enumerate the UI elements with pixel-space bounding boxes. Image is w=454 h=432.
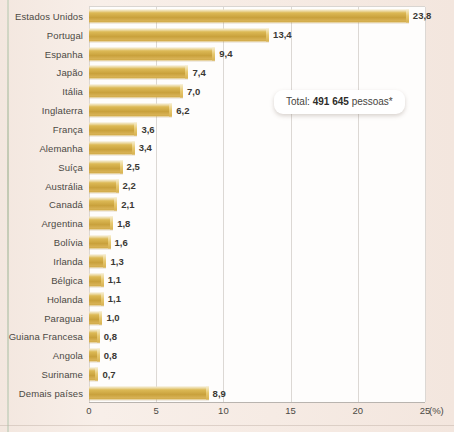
bar <box>89 311 102 324</box>
bar <box>89 9 409 22</box>
bar-value-label: 1,1 <box>108 274 121 285</box>
category-label: Suriname <box>42 369 83 380</box>
total-callout: Total: 491 645 pessoas* <box>274 90 405 114</box>
bar-container: 9,4 <box>89 47 215 60</box>
bar-value-label: 1,1 <box>108 293 121 304</box>
category-label: Demais países <box>19 388 83 399</box>
bar <box>89 330 100 343</box>
bar-value-label: 3,6 <box>141 124 154 135</box>
category-label: Inglaterra <box>42 105 83 116</box>
bar-value-label: 13,4 <box>273 29 292 40</box>
bar-container: 3,6 <box>89 123 137 136</box>
category-label: Canadá <box>49 199 83 210</box>
x-tick-label: 0 <box>86 405 91 416</box>
bar-container: 1,1 <box>89 273 104 286</box>
bar-value-label: 23,8 <box>413 10 432 21</box>
bar <box>89 387 209 400</box>
bar-container: 0,8 <box>89 330 100 343</box>
x-tick-label: 5 <box>154 405 159 416</box>
page-bottom-rule <box>0 425 454 426</box>
category-label: França <box>53 124 83 135</box>
bar-container: 0,7 <box>89 368 98 381</box>
category-label: Japão <box>57 67 83 78</box>
bar-row: Japão7,4 <box>0 63 454 83</box>
bar-row: Demais países8,9 <box>0 383 454 403</box>
bar-container: 23,8 <box>89 9 409 22</box>
bar-container: 3,4 <box>89 141 135 154</box>
bar-value-label: 2,5 <box>127 161 140 172</box>
category-label: Estados Unidos <box>15 10 83 21</box>
bar-value-label: 0,8 <box>104 350 117 361</box>
bar-container: 2,1 <box>89 198 117 211</box>
bar-container: 0,8 <box>89 349 100 362</box>
bar-row: Austrália2,2 <box>0 176 454 196</box>
bar-value-label: 1,0 <box>106 312 119 323</box>
bar <box>89 198 117 211</box>
bar-container: 13,4 <box>89 28 269 41</box>
bar-container: 8,9 <box>89 387 209 400</box>
bar <box>89 255 106 268</box>
bar-container: 6,2 <box>89 104 172 117</box>
bar <box>89 47 215 60</box>
bar-row: Suíça2,5 <box>0 157 454 177</box>
bar <box>89 236 111 249</box>
bar-chart: Estados Unidos23,8Portugal13,4Espanha9,4… <box>0 0 454 432</box>
bar <box>89 85 183 98</box>
category-label: Espanha <box>45 48 83 59</box>
bar-row: Holanda1,1 <box>0 289 454 309</box>
bar-row: Estados Unidos23,8 <box>0 6 454 26</box>
x-tick-label: 10 <box>218 405 229 416</box>
bar-container: 7,4 <box>89 66 188 79</box>
bar-value-label: 0,7 <box>102 369 115 380</box>
bar <box>89 368 98 381</box>
bar-row: Alemanha3,4 <box>0 138 454 158</box>
bar-row: Bolívia1,6 <box>0 232 454 252</box>
total-number: 491 645 <box>313 96 349 107</box>
x-axis: (%) 0510152025 <box>0 403 454 423</box>
bar-row: Angola0,8 <box>0 345 454 365</box>
bar-row: Paraguai1,0 <box>0 308 454 328</box>
category-label: Argentina <box>41 218 83 229</box>
category-label: Guiana Francesa <box>9 331 83 342</box>
bar-container: 2,5 <box>89 160 123 173</box>
x-tick-label: 15 <box>285 405 296 416</box>
bar <box>89 66 188 79</box>
bar-row: Espanha9,4 <box>0 44 454 64</box>
bar-value-label: 1,3 <box>110 256 123 267</box>
bar <box>89 28 269 41</box>
bar-row: Irlanda1,3 <box>0 251 454 271</box>
bar-value-label: 7,0 <box>187 86 200 97</box>
category-label: Portugal <box>47 29 83 40</box>
total-prefix: Total: <box>286 96 310 107</box>
bar-value-label: 1,8 <box>117 218 130 229</box>
bar <box>89 104 172 117</box>
category-label: Bélgica <box>51 274 83 285</box>
bar-container: 1,1 <box>89 292 104 305</box>
x-tick-label: 25 <box>420 405 431 416</box>
bar <box>89 273 104 286</box>
bar-container: 1,0 <box>89 311 102 324</box>
bar <box>89 141 135 154</box>
bar-value-label: 2,2 <box>123 180 136 191</box>
category-label: Alemanha <box>39 142 83 153</box>
bar-row: Portugal13,4 <box>0 25 454 45</box>
bar-value-label: 9,4 <box>219 48 232 59</box>
category-label: Angola <box>53 350 83 361</box>
bar-value-label: 8,9 <box>213 388 226 399</box>
x-axis-unit-label: (%) <box>429 405 444 416</box>
bar-value-label: 6,2 <box>176 105 189 116</box>
bar-value-label: 1,6 <box>115 237 128 248</box>
category-label: Itália <box>62 86 83 97</box>
bar-container: 7,0 <box>89 85 183 98</box>
bar-row: Bélgica1,1 <box>0 270 454 290</box>
bar-value-label: 2,1 <box>121 199 134 210</box>
category-label: Suíça <box>58 161 83 172</box>
bar-container: 1,6 <box>89 236 111 249</box>
bar-row: Canadá2,1 <box>0 195 454 215</box>
bar-value-label: 3,4 <box>139 142 152 153</box>
total-suffix: pessoas* <box>352 96 393 107</box>
bar-row: Argentina1,8 <box>0 213 454 233</box>
category-label: Bolívia <box>54 237 83 248</box>
bar <box>89 217 113 230</box>
bar <box>89 292 104 305</box>
